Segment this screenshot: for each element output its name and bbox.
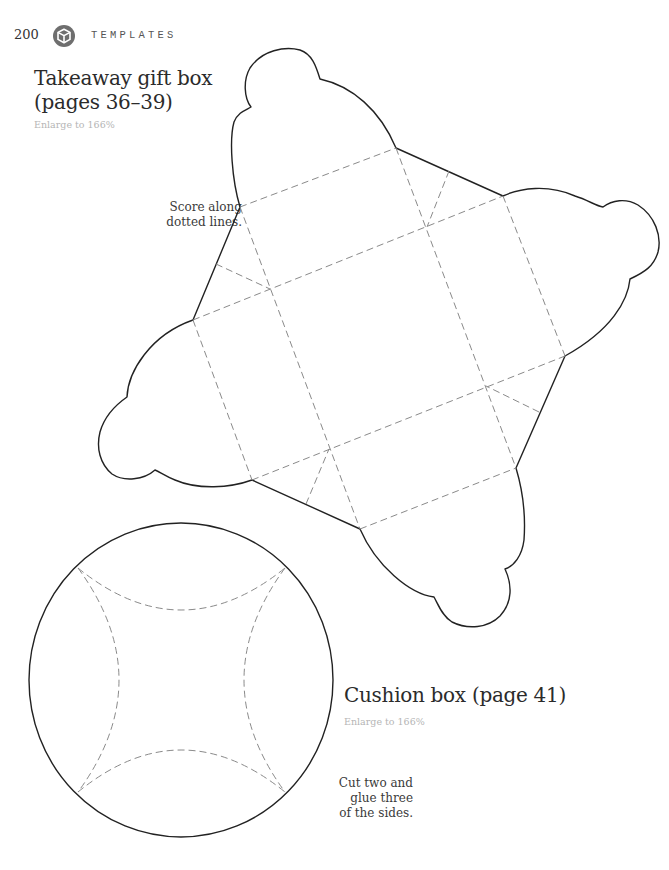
templates-drawing	[0, 0, 669, 870]
takeaway-cut-outline	[99, 49, 660, 627]
cushion-cut-circle	[29, 523, 333, 837]
cushion-score-lines	[78, 568, 285, 792]
cushion-instruction: Cut two and glue three of the sides.	[300, 776, 413, 821]
cushion-box-template	[29, 523, 333, 837]
cushion-box-title: Cushion box (page 41)	[344, 683, 644, 707]
takeaway-score-lines	[193, 148, 565, 529]
takeaway-box-template	[99, 49, 660, 627]
cushion-instruction-line2: glue three	[300, 791, 413, 806]
cushion-instruction-line1: Cut two and	[300, 776, 413, 791]
cushion-instruction-line3: of the sides.	[300, 806, 413, 821]
cushion-enlarge-note: Enlarge to 166%	[344, 716, 425, 727]
